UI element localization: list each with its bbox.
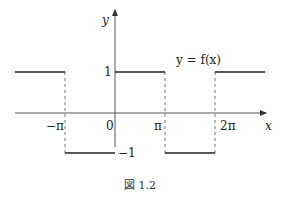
- function-label: y = f(x): [175, 53, 221, 67]
- y-axis-label: y: [101, 13, 109, 27]
- square-wave-figure: y x y = f(x) 1 −1 0 −π π 2π 図 1.2: [0, 0, 287, 199]
- tick-label-two-pi: 2π: [220, 119, 236, 133]
- tick-label-neg-one: −1: [118, 146, 136, 160]
- x-axis-label: x: [265, 119, 272, 133]
- tick-label-zero: 0: [106, 119, 114, 133]
- tick-label-one: 1: [104, 65, 112, 79]
- figure-caption: 図 1.2: [124, 179, 156, 192]
- tick-label-pi: π: [154, 119, 162, 133]
- tick-label-neg-pi: −π: [46, 119, 64, 133]
